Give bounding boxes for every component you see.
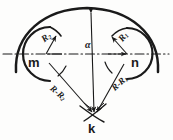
node-label-k: k [88,122,95,135]
angle-label-alpha: α [85,40,91,50]
diagram-svg [0,0,173,140]
figure-canvas: m n k R2 R1 R-R2 R-R1 α [0,0,173,140]
alpha-dimension-line [91,13,94,112]
construction-arcs-at-k [80,104,106,122]
node-label-m: m [28,56,40,69]
node-label-n: n [131,56,139,69]
